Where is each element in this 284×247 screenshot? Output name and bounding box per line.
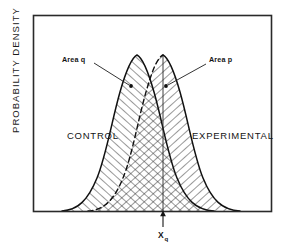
area-p-leader-dot [164,84,168,88]
threshold-callout: X q [158,211,169,242]
figure-canvas: PROBABILITY DENSITY Area q Area p CONTRO… [0,0,284,247]
probability-density-figure: PROBABILITY DENSITY Area q Area p CONTRO… [0,0,284,247]
area-p-label: Area p [209,55,233,64]
control-label: CONTROL [67,130,119,141]
threshold-label: X [158,230,164,240]
experimental-label: EXPERIMENTAL [192,130,274,141]
area-q-leader-dot [129,84,133,88]
threshold-label-subscript: q [165,236,169,242]
y-axis-title: PROBABILITY DENSITY [10,7,21,133]
area-q-label: Area q [62,55,85,64]
